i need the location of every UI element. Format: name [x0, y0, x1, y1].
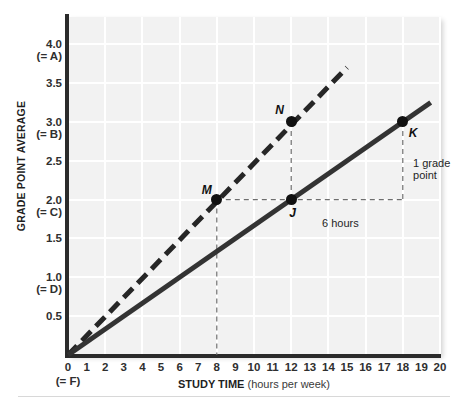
y-tick-value: 1.5	[46, 232, 62, 244]
y-tick-1-0: 1.0(= D)	[8, 271, 62, 295]
x-tick-20: 20	[427, 360, 453, 374]
chart-plot-svg	[0, 0, 467, 405]
y-tick-grade-letter: (= A)	[8, 50, 62, 62]
data-point-label-K: K	[409, 126, 418, 140]
x-axis-title-light: (hours per week)	[247, 378, 330, 390]
y-tick-grade-letter: (= D)	[8, 283, 62, 295]
annotation-one-grade-point: 1 gradepoint	[413, 157, 450, 182]
series-line-shallower-solid-line	[68, 102, 431, 355]
y-axis-tick-labels: 4.0(= A)3.53.0(= B)2.52.0(= C)1.51.0(= D…	[0, 0, 62, 405]
annotation-six-hours: 6 hours	[322, 217, 359, 230]
x-axis-title-bold: STUDY TIME	[178, 378, 244, 390]
annotation-line-1: 1 grade	[413, 157, 450, 170]
y-tick-value: 3.0	[46, 116, 62, 128]
series-line-steeper-dashed-line	[68, 68, 347, 355]
y-tick-value: 1.0	[46, 271, 62, 283]
x-axis-title: STUDY TIME (hours per week)	[68, 378, 440, 390]
y-axis-title: GRADE POINT AVERAGE	[15, 71, 27, 261]
data-point-J	[286, 194, 297, 205]
data-series-group	[68, 68, 431, 355]
y-tick-0-5: 0.5	[8, 310, 62, 322]
y-tick-value: 0.5	[46, 310, 62, 322]
y-tick-value: 2.0	[46, 194, 62, 206]
data-point-label-J: J	[289, 206, 296, 220]
y-tick-value: 3.5	[46, 77, 62, 89]
y-tick-4-0: 4.0(= A)	[8, 38, 62, 62]
y-tick-value: 2.5	[46, 155, 62, 167]
y-tick-value: 4.0	[46, 38, 62, 50]
annotation-line-2: point	[413, 169, 450, 182]
chart-figure: MNJK 6 hours1 gradepoint 0(= F)123456789…	[0, 0, 467, 405]
data-point-label-N: N	[275, 103, 284, 117]
data-point-label-M: M	[202, 183, 212, 197]
guide-lines-group	[217, 122, 403, 355]
bottom-divider	[18, 396, 450, 397]
